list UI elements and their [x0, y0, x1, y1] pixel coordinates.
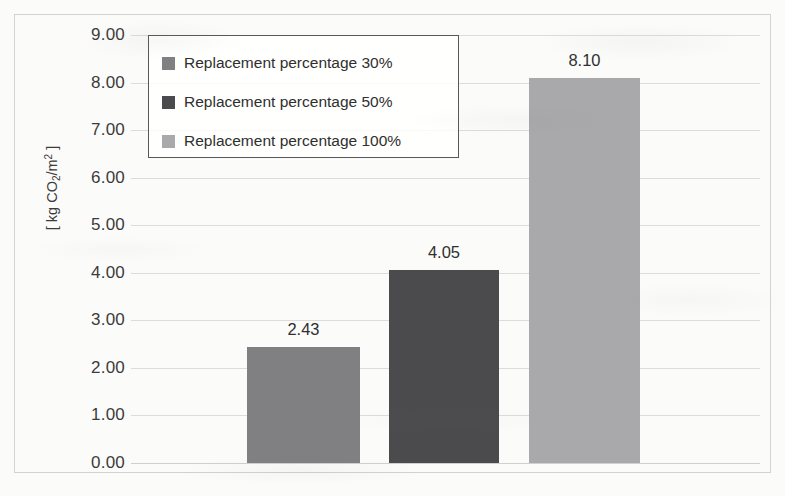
chart-legend: Replacement percentage 30%Replacement pe… — [148, 35, 459, 158]
y-axis-tick-label: 8.00 — [55, 73, 125, 93]
gridline — [131, 178, 760, 179]
legend-item-1[interactable]: Replacement percentage 30% — [162, 54, 393, 72]
y-axis-tick-label: 5.00 — [55, 215, 125, 235]
bar-value-label-1: 2.43 — [247, 320, 360, 339]
y-axis-tick-label: 7.00 — [55, 120, 125, 140]
legend-item-label: Replacement percentage 30% — [184, 54, 393, 72]
gridline — [131, 463, 760, 464]
y-axis-tick-label: 0.00 — [55, 453, 125, 473]
bar-2[interactable] — [389, 270, 499, 463]
y-axis-tick-label: 4.00 — [55, 263, 125, 283]
legend-item-label: Replacement percentage 50% — [184, 93, 393, 111]
legend-swatch-icon — [162, 135, 175, 148]
bar-value-label-3: 8.10 — [529, 51, 640, 70]
y-axis-tick-label: 2.00 — [55, 358, 125, 378]
y-axis-tick-label: 6.00 — [55, 168, 125, 188]
y-axis-tick-label: 9.00 — [55, 25, 125, 45]
y-axis-tick-label: 1.00 — [55, 405, 125, 425]
legend-swatch-icon — [162, 96, 175, 109]
bar-value-label-2: 4.05 — [389, 243, 499, 262]
y-axis-tick-labels: 9.008.007.006.005.004.003.002.001.000.00 — [50, 35, 125, 463]
chart-screenshot: [ kg CO2/m2 ] 9.008.007.006.005.004.003.… — [0, 0, 785, 496]
y-axis-tick-label: 3.00 — [55, 310, 125, 330]
legend-item-label: Replacement percentage 100% — [184, 132, 401, 150]
gridline — [131, 225, 760, 226]
bar-3[interactable] — [529, 78, 640, 463]
bar-1[interactable] — [247, 347, 360, 463]
legend-item-3[interactable]: Replacement percentage 100% — [162, 132, 401, 150]
legend-swatch-icon — [162, 57, 175, 70]
legend-item-2[interactable]: Replacement percentage 50% — [162, 93, 393, 111]
